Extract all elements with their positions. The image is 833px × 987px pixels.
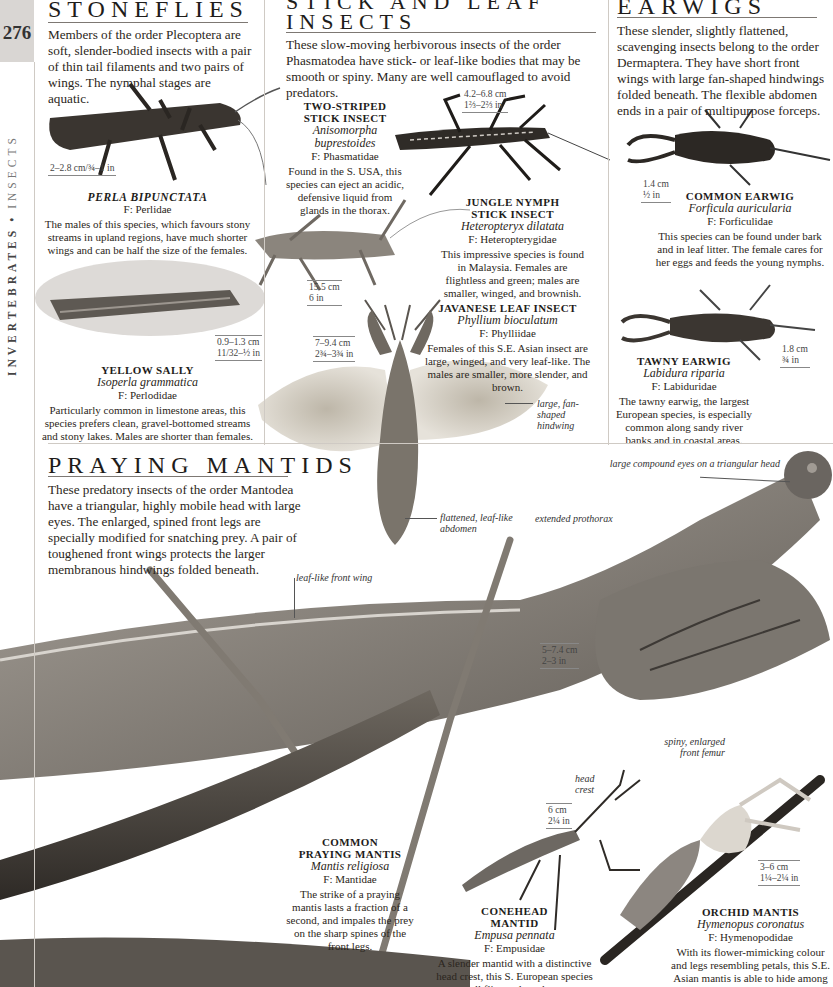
- femur-label: spiny, enlarged front femur: [645, 736, 725, 758]
- jungle-nymph-size: 15.5 cm 6 in: [307, 280, 342, 306]
- section-divider: [48, 443, 833, 444]
- species-description: The strike of a praying mantis lasts a f…: [285, 888, 415, 953]
- size-cm: 5–7.4 cm: [542, 645, 577, 656]
- size-in: 1¼–2¼ in: [760, 873, 798, 884]
- size-cm: 1.4 cm: [643, 179, 669, 190]
- two-striped-size: 4.2–6.8 cm 1⅔–2⅔ in: [462, 88, 508, 113]
- size-in: 2¾–3¾ in: [315, 349, 353, 360]
- species-family: F: Mantidae: [285, 873, 415, 886]
- species-description: This species can be found under bark and…: [650, 230, 830, 269]
- species-caption-two-striped: TWO-STRIPED STICK INSECT Anisomorpha bup…: [284, 100, 406, 217]
- head-crest-label: head crest: [575, 773, 594, 795]
- species-family: F: Phylliidae: [415, 327, 600, 340]
- species-name-line-1: JUNGLE NYMPH: [440, 196, 585, 208]
- running-head-section: INVERTEBRATES: [6, 227, 18, 376]
- perla-size: 2–2.8 cm/¾–1 in: [48, 162, 116, 176]
- species-caption-tawny-earwig: TAWNY EARWIG Labidura riparia F: Labidur…: [614, 355, 754, 447]
- species-caption-jungle-nymph: JUNGLE NYMPH STICK INSECT Heteropteryx d…: [440, 196, 585, 300]
- running-head-subsection: INSECTS: [6, 134, 18, 209]
- stoneflies-intro: Members of the order Plecoptera are soft…: [48, 27, 253, 107]
- species-name: PERLA BIPUNCTATA: [40, 191, 255, 203]
- size-in: 2¼ in: [548, 816, 570, 827]
- abdomen-leader: [405, 518, 437, 519]
- side-rule: [34, 62, 35, 987]
- common-earwig-image: [628, 110, 830, 185]
- yellow-sally-size: 0.9–1.3 cm 11/32–½ in: [215, 335, 262, 361]
- page-number: 276: [0, 22, 34, 44]
- column-divider: [608, 0, 609, 445]
- column-divider: [264, 0, 265, 445]
- size-in: 2–3 in: [542, 656, 577, 667]
- species-family: F: Perlidae: [40, 203, 255, 216]
- species-scientific: Forficula auricularia: [650, 202, 830, 215]
- species-family: F: Heteropterygidae: [440, 233, 585, 246]
- species-description: This impressive species is found in Mala…: [440, 248, 585, 300]
- size-cm: 7–9.4 cm: [315, 338, 353, 349]
- conehead-size: 6 cm 2¼ in: [546, 803, 572, 829]
- stick-leaf-title: STICK AND LEAF INSECTS: [286, 0, 546, 32]
- species-name-line-1: COMMON: [285, 836, 415, 848]
- species-scientific: Phyllium bioculatum: [415, 314, 600, 327]
- species-caption-common-mantis: COMMON PRAYING MANTIS Mantis religiosa F…: [285, 836, 415, 953]
- species-name-line-1: TWO-STRIPED: [284, 100, 406, 112]
- species-caption-common-earwig: COMMON EARWIG Forficula auricularia F: F…: [650, 190, 830, 269]
- mantids-title: PRAYING MANTIDS: [48, 453, 358, 477]
- mantids-intro: These predatory insects of the order Man…: [48, 482, 308, 578]
- species-scientific: Mantis religiosa: [285, 860, 415, 873]
- head-crest-line-2: crest: [575, 784, 594, 795]
- species-family: F: Perlodidae: [40, 389, 255, 402]
- species-scientific: Isoperla grammatica: [40, 376, 255, 389]
- species-scientific: Heteropteryx dilatata: [440, 220, 585, 233]
- title-line-2: INSECTS: [286, 12, 546, 32]
- stick-leaf-intro: These slow-moving herbivorous insects of…: [286, 37, 601, 101]
- species-description: Females of this S.E. Asian insect are la…: [415, 342, 600, 394]
- species-scientific: Labidura riparia: [614, 367, 754, 380]
- size-in: 1⅔–2⅔ in: [464, 100, 506, 111]
- earwigs-title: EARWIGS: [617, 0, 767, 18]
- common-mantis-size: 5–7.4 cm 2–3 in: [540, 643, 579, 669]
- species-description: Particularly common in limestone areas, …: [40, 404, 255, 443]
- species-description: The tawny earwig, the largest European s…: [614, 395, 754, 447]
- species-scientific: Empusa pennata: [432, 929, 597, 942]
- javanese-size: 7–9.4 cm 2¾–3¾ in: [313, 336, 355, 362]
- species-description: Found in the S. USA, this species can ej…: [284, 165, 406, 217]
- species-family: F: Hymenopodidae: [668, 931, 833, 944]
- hindwing-leader: [505, 403, 533, 404]
- earwigs-rule: [617, 17, 817, 18]
- species-caption-yellow-sally: YELLOW SALLY Isoperla grammatica F: Perl…: [40, 364, 255, 443]
- eyes-label: large compound eyes on a triangular head: [600, 458, 780, 469]
- species-caption-conehead: CONEHEAD MANTID Empusa pennata F: Empusi…: [432, 905, 597, 987]
- species-caption-perla: PERLA BIPUNCTATA F: Perlidae The males o…: [40, 191, 255, 257]
- species-description: A slender mantid with a distinctive head…: [432, 957, 597, 987]
- size-cm: 0.9–1.3 cm: [217, 337, 260, 348]
- earwigs-intro: These slender, slightly flattened, scave…: [617, 23, 827, 119]
- front-wing-label: leaf-like front wing: [296, 572, 372, 583]
- size-cm: 1.8 cm: [782, 344, 808, 355]
- stoneflies-rule: [48, 22, 248, 23]
- size-in: ¾ in: [782, 355, 808, 366]
- species-name-line-1: CONEHEAD: [432, 905, 597, 917]
- yellow-sally-image: [35, 260, 265, 336]
- species-family: F: Empusidae: [432, 942, 597, 955]
- species-family: F: Labiduridae: [614, 380, 754, 393]
- stick-leaf-rule: [286, 32, 596, 33]
- front-wing-leader: [294, 578, 295, 618]
- size-in: 6 in: [309, 293, 340, 304]
- size-cm: 4.2–6.8 cm: [464, 89, 506, 100]
- mantids-rule: [48, 476, 288, 477]
- species-description: With its flower-mimicking colour and leg…: [668, 946, 833, 987]
- size-in: 11/32–½ in: [217, 348, 260, 359]
- running-head: INVERTEBRATES•INSECTS: [6, 136, 18, 376]
- species-description: The males of this species, which favours…: [40, 218, 255, 257]
- running-head-separator: •: [6, 214, 18, 222]
- tawny-earwig-size: 1.8 cm ¾ in: [780, 343, 810, 368]
- size-cm: 3–6 cm: [760, 862, 798, 873]
- prothorax-label: extended prothorax: [535, 513, 613, 524]
- species-scientific: Anisomorpha buprestoides: [284, 124, 406, 150]
- species-caption-orchid: ORCHID MANTIS Hymenopus coronatus F: Hym…: [668, 906, 833, 987]
- species-family: F: Phasmatidae: [284, 150, 406, 163]
- orchid-size: 3–6 cm 1¼–2¼ in: [758, 860, 800, 886]
- size-cm: 6 cm: [548, 805, 570, 816]
- abdomen-label: flattened, leaf-like abdomen: [440, 512, 540, 534]
- species-family: F: Forficulidae: [650, 215, 830, 228]
